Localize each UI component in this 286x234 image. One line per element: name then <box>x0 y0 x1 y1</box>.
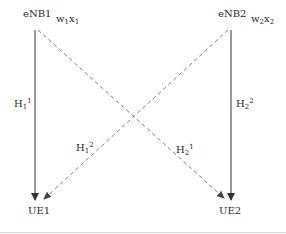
channel-h11-label: H11 <box>14 99 32 109</box>
precoder-enb2-label: w2x2 <box>251 14 274 24</box>
node-ue2-label: UE2 <box>219 206 241 216</box>
precoder-x-sub: 2 <box>270 18 274 26</box>
channel-sup: 1 <box>27 97 31 105</box>
channel-h21-label: H21 <box>176 145 194 155</box>
node-enb2-label: eNB2 <box>218 9 246 19</box>
channel-sup: 2 <box>89 141 93 149</box>
node-enb1-label: eNB1 <box>23 9 51 19</box>
diagram-canvas <box>0 0 286 234</box>
channel-base: H <box>176 144 185 155</box>
bottom-divider <box>0 232 286 233</box>
precoder-enb1-label: w1x1 <box>56 14 79 24</box>
link-h12-enb2-to-ue1 <box>44 30 228 199</box>
channel-base: H <box>76 142 85 153</box>
channel-sup: 2 <box>249 97 253 105</box>
precoder-w: w <box>251 13 260 24</box>
channel-base: H <box>14 98 23 109</box>
link-h21-enb1-to-ue2 <box>38 30 224 198</box>
precoder-w: w <box>56 13 65 24</box>
node-ue1-label: UE1 <box>28 206 50 216</box>
channel-base: H <box>236 98 245 109</box>
channel-sup: 1 <box>189 143 193 151</box>
precoder-x-sub: 1 <box>75 18 79 26</box>
channel-h12-label: H12 <box>76 143 94 153</box>
channel-h22-label: H22 <box>236 99 254 109</box>
